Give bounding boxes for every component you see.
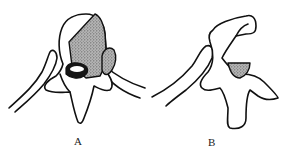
panel-b-illustration	[152, 15, 278, 128]
panel-a-label: A	[74, 135, 82, 147]
panel-a-illustration	[9, 14, 145, 123]
panel-b-label: B	[208, 136, 215, 148]
panel-a-canal-highlight	[70, 66, 84, 72]
vertebra-diagram	[0, 0, 289, 157]
panel-a-lesion-pedicle	[102, 48, 116, 75]
